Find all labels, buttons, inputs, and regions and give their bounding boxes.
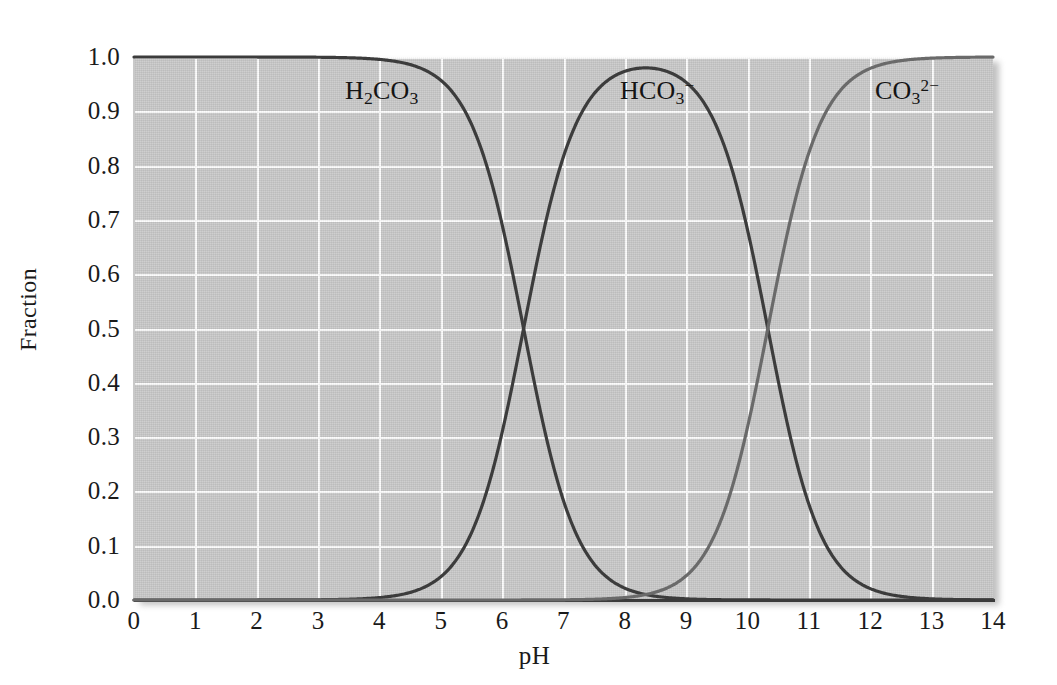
y-tick-label: 0.8	[28, 153, 120, 179]
curve-hco3	[134, 68, 993, 600]
x-tick-label: 5	[411, 605, 471, 637]
series-label-co3: CO32−	[875, 76, 939, 109]
y-tick-label: 0.0	[28, 587, 120, 613]
x-tick-label: 2	[227, 605, 287, 637]
x-axis-title-text: pH	[519, 642, 550, 669]
curve-co32	[134, 57, 993, 600]
x-tick-label: 7	[534, 605, 594, 637]
y-tick-label: 0.4	[28, 370, 120, 396]
x-tick-label: 6	[472, 605, 532, 637]
y-tick-label: 0.5	[28, 316, 120, 342]
curve-layer	[134, 57, 993, 600]
y-tick-label: 1.0	[28, 44, 120, 70]
x-axis-title: pH	[0, 642, 1057, 670]
y-tick-label: 0.6	[28, 261, 120, 287]
x-tick-label: 4	[349, 605, 409, 637]
x-tick-label: 12	[840, 605, 900, 637]
carbonate-speciation-chart: 01234567891011121314 0.00.10.20.30.40.50…	[0, 0, 1057, 685]
x-tick-label: 14	[963, 605, 1023, 637]
series-label-hco3: HCO3−	[620, 76, 694, 109]
x-tick-label: 13	[902, 605, 962, 637]
x-tick-label: 9	[656, 605, 716, 637]
y-tick-label: 0.9	[28, 98, 120, 124]
x-tick-label: 11	[779, 605, 839, 637]
y-tick-label: 0.7	[28, 207, 120, 233]
x-tick-label: 8	[595, 605, 655, 637]
series-label-h2co3: H2CO3	[345, 76, 419, 109]
x-tick-label: 10	[718, 605, 778, 637]
y-axis-title: Fraction	[15, 250, 42, 370]
y-tick-label: 0.2	[28, 478, 120, 504]
x-tick-label: 1	[165, 605, 225, 637]
x-tick-label: 3	[288, 605, 348, 637]
y-tick-label: 0.1	[28, 533, 120, 559]
y-tick-label: 0.3	[28, 424, 120, 450]
curve-h2co3	[134, 57, 993, 600]
